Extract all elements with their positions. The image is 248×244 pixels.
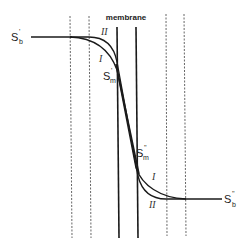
dashed-boundary-left-inner	[89, 16, 91, 238]
svg-text:S: S	[224, 193, 231, 205]
dashed-boundary-left-outer	[70, 16, 72, 238]
curve-label-II-upper: II	[100, 26, 108, 37]
label-right-bath: S '' b	[224, 190, 236, 208]
svg-text:'': ''	[144, 144, 147, 151]
label-right-membrane: S '' m	[136, 144, 149, 161]
membrane-wall-left	[117, 27, 119, 238]
curve-label-I-lower: I	[151, 171, 156, 182]
membrane-walls	[117, 27, 138, 238]
curve-label-II-lower: II	[148, 199, 156, 210]
svg-text:': '	[19, 28, 20, 35]
dashed-boundary-right-inner	[166, 14, 167, 236]
curve-label-I-upper: I	[98, 53, 103, 64]
svg-text:m: m	[143, 154, 149, 161]
svg-text:m: m	[110, 77, 116, 84]
svg-text:S: S	[11, 31, 18, 43]
membrane-label: membrane	[106, 13, 147, 22]
svg-text:': '	[111, 67, 112, 74]
label-left-membrane: S ' m	[103, 67, 116, 84]
label-left-bath: S ' b	[11, 28, 23, 45]
svg-text:b: b	[232, 201, 236, 208]
dashed-boundary-right-outer	[184, 14, 186, 236]
membrane-concentration-profile-diagram: membrane S ' b S '' b S ' m S	[0, 0, 248, 244]
svg-text:'': ''	[232, 190, 235, 197]
svg-text:b: b	[19, 38, 23, 45]
membrane-wall-right	[136, 27, 138, 238]
